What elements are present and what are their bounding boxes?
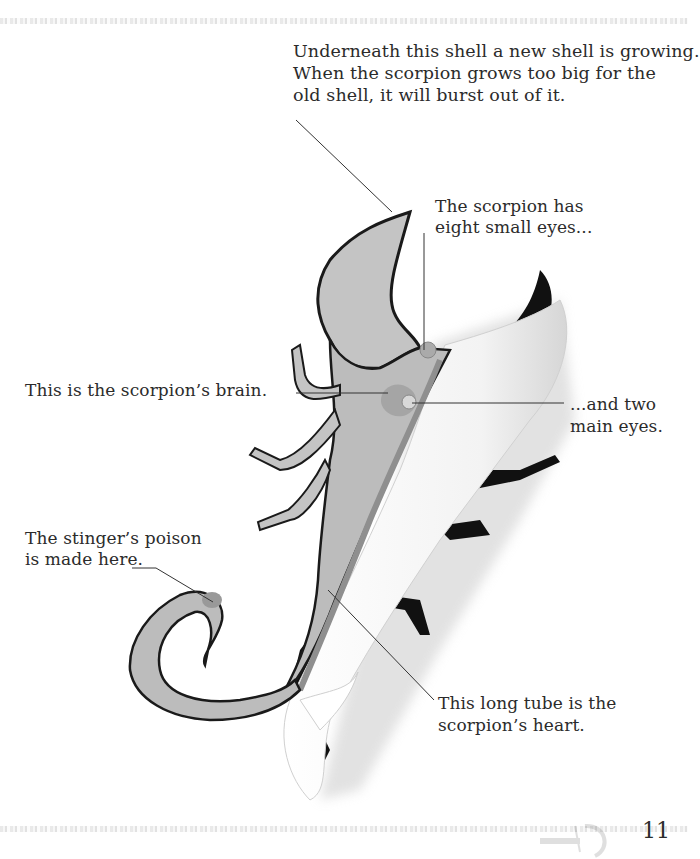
label-brain: This is the scorpion’s brain. — [25, 380, 267, 401]
inner-leg-3 — [258, 460, 330, 530]
scorpion-watermark-icon — [540, 826, 605, 856]
poison-gland — [202, 592, 222, 608]
label-small-eyes: The scorpion has eight small eyes... — [435, 196, 592, 238]
inner-tail — [130, 592, 300, 720]
label-shell: Underneath this shell a new shell is gro… — [293, 40, 700, 106]
label-poison: The stinger’s poison is made here. — [25, 528, 202, 570]
main-eyes — [402, 395, 416, 409]
leader-shell — [296, 120, 392, 212]
label-heart: This long tube is the scorpion’s heart. — [438, 692, 616, 736]
page-number: 11 — [642, 818, 670, 843]
small-eyes-cluster — [420, 342, 436, 358]
label-main-eyes: ...and two main eyes. — [570, 393, 663, 437]
